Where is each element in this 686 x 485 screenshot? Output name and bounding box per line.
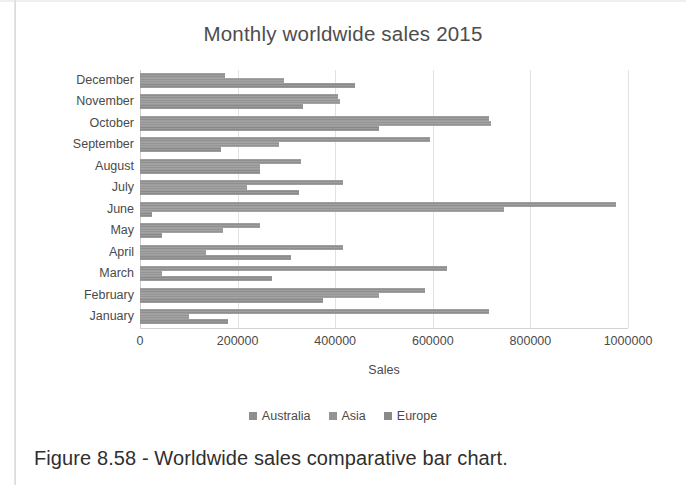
bar-group-may	[140, 221, 628, 243]
y-tick-label-october: October	[24, 116, 134, 130]
y-tick-label-january: January	[24, 309, 134, 323]
bar-august-europe	[140, 169, 260, 174]
y-tick-label-june: June	[24, 202, 134, 216]
bar-july-europe	[140, 190, 299, 195]
bar-october-europe	[140, 126, 379, 131]
legend-swatch-icon-australia	[249, 412, 257, 420]
x-axis-tick-labels: 02000004000006000008000001000000	[140, 334, 628, 354]
bar-december-europe	[140, 83, 355, 88]
legend-item-asia[interactable]: Asia	[329, 409, 366, 423]
legend-item-europe[interactable]: Europe	[384, 409, 437, 423]
bar-group-december	[140, 70, 628, 92]
gridline-1000000	[628, 70, 629, 328]
y-tick-label-february: February	[24, 288, 134, 302]
bar-group-january	[140, 307, 628, 329]
bar-chart-figure: Monthly worldwide sales 2015 DecemberNov…	[0, 0, 686, 436]
x-axis-title: Sales	[140, 363, 628, 377]
bar-group-june	[140, 199, 628, 221]
bar-group-april	[140, 242, 628, 264]
bar-march-europe	[140, 276, 272, 281]
y-axis-month-labels: DecemberNovemberOctoberSeptemberAugustJu…	[24, 70, 134, 328]
x-tick-label-0: 0	[137, 334, 144, 348]
x-tick-label-600000: 600000	[412, 334, 454, 348]
bar-september-europe	[140, 147, 221, 152]
bar-group-march	[140, 264, 628, 286]
legend-swatch-icon-asia	[329, 412, 337, 420]
x-tick-label-800000: 800000	[510, 334, 552, 348]
bar-group-september	[140, 135, 628, 157]
bar-january-europe	[140, 319, 228, 324]
chart-title: Monthly worldwide sales 2015	[0, 22, 686, 46]
x-tick-label-400000: 400000	[314, 334, 356, 348]
legend-item-australia[interactable]: Australia	[249, 409, 311, 423]
x-tick-label-200000: 200000	[217, 334, 259, 348]
y-tick-label-november: November	[24, 94, 134, 108]
x-tick-label-1000000: 1000000	[604, 334, 653, 348]
legend-label: Australia	[262, 409, 311, 423]
y-tick-label-march: March	[24, 266, 134, 280]
y-tick-label-july: July	[24, 180, 134, 194]
y-tick-label-september: September	[24, 137, 134, 151]
legend-label: Asia	[342, 409, 366, 423]
bar-november-europe	[140, 104, 303, 109]
chart-legend: AustraliaAsiaEurope	[0, 409, 686, 423]
bar-june-europe	[140, 212, 152, 217]
bar-group-november	[140, 92, 628, 114]
bar-may-europe	[140, 233, 162, 238]
y-tick-label-december: December	[24, 73, 134, 87]
bar-january-australia	[140, 309, 489, 314]
bar-april-europe	[140, 255, 291, 260]
x-axis-line	[140, 328, 628, 329]
legend-swatch-icon-europe	[384, 412, 392, 420]
y-tick-label-august: August	[24, 159, 134, 173]
bar-group-february	[140, 285, 628, 307]
legend-label: Europe	[397, 409, 437, 423]
bar-march-australia	[140, 266, 447, 271]
figure-caption: Figure 8.58 - Worldwide sales comparativ…	[34, 447, 508, 470]
page-background: Monthly worldwide sales 2015 DecemberNov…	[0, 0, 686, 485]
bar-group-august	[140, 156, 628, 178]
y-tick-label-april: April	[24, 245, 134, 259]
bar-group-july	[140, 178, 628, 200]
plot-area	[140, 70, 628, 328]
bar-june-asia	[140, 207, 504, 212]
bar-group-october	[140, 113, 628, 135]
y-tick-label-may: May	[24, 223, 134, 237]
bar-february-europe	[140, 298, 323, 303]
